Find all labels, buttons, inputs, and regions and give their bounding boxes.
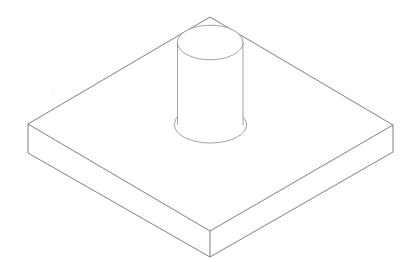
plate-right-face (210, 125, 393, 257)
cylinder-post (174, 25, 246, 143)
cylinder-base-ellipse (174, 117, 246, 143)
stray-mark (52, 92, 53, 93)
drawing-canvas: Isometric view: square base plate with c… (0, 0, 414, 262)
cylinder-top-ellipse (177, 25, 243, 60)
plate-left-face (28, 124, 210, 257)
isometric-drawing (0, 0, 414, 262)
